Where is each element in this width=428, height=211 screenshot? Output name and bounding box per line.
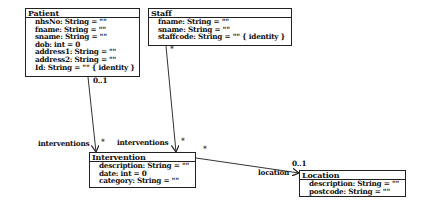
class-staff[interactable]: Staff fname: String = "" sname: String =… (148, 8, 292, 46)
multiplicity-label: * (170, 45, 174, 53)
multiplicity-label: * (101, 138, 105, 146)
role-label: interventions (117, 139, 168, 147)
multiplicity-label: * (203, 145, 207, 153)
attribute: category: String = "" (99, 177, 193, 185)
multiplicity-label: * (181, 137, 185, 145)
multiplicity-label: 0..1 (93, 77, 107, 85)
role-label: location (258, 169, 289, 177)
class-location[interactable]: Location description: String = "" postco… (299, 170, 406, 197)
attribute: Id: String = "" { identity } (35, 64, 137, 72)
class-patient[interactable]: Patient nhsNo: String = "" fname: String… (25, 8, 140, 77)
staff-intervention-line (166, 46, 176, 152)
role-label: interventions (38, 140, 89, 148)
attribute: postcode: String = "" (309, 188, 403, 196)
multiplicity-label: 0..1 (292, 160, 306, 168)
attribute: staffcode: String = "" { identity } (158, 33, 289, 41)
class-intervention[interactable]: Intervention description: String = "" da… (89, 152, 196, 188)
